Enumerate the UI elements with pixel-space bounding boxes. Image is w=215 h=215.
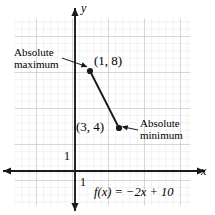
graph-figure: Absolute maximum Absolute minimum (1, 8)… bbox=[0, 0, 215, 215]
x-axis-arrow-left bbox=[3, 167, 11, 174]
annotation-absolute-minimum: Absolute minimum bbox=[140, 118, 183, 142]
point-marker-min bbox=[116, 125, 122, 131]
annotation-absolute-maximum: Absolute maximum bbox=[14, 47, 59, 71]
point-marker-max bbox=[87, 68, 93, 74]
y-axis-tick-label: 1 bbox=[64, 150, 70, 163]
graph-canvas bbox=[0, 0, 215, 215]
annotation-absolute-maximum-line2: maximum bbox=[14, 59, 59, 71]
y-axis-arrow-up bbox=[71, 8, 78, 16]
function-equation-label: f(x) = −2x + 10 bbox=[94, 186, 173, 200]
point-label-min: (3, 4) bbox=[76, 120, 104, 134]
y-axis-label: y bbox=[81, 2, 86, 15]
annotation-absolute-minimum-line2: minimum bbox=[140, 130, 183, 142]
x-axis-tick-label: 1 bbox=[80, 176, 86, 189]
y-axis-arrow-down bbox=[71, 203, 78, 211]
x-axis-label: x bbox=[201, 165, 206, 178]
point-label-max: (1, 8) bbox=[94, 54, 122, 68]
